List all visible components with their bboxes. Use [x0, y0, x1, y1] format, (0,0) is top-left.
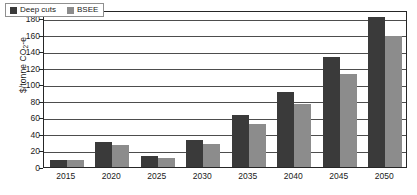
- x-axis-tick-label: 2040: [284, 172, 303, 181]
- x-axis-tick-label: 2030: [193, 172, 212, 181]
- bar-bsee-2020: [112, 145, 129, 167]
- y-axis-tick-label: 40: [14, 131, 40, 140]
- legend-entry: BSEE: [67, 6, 98, 14]
- bar-deep-cuts-2025: [141, 156, 158, 167]
- y-axis-tick-label: 160: [14, 32, 40, 41]
- bar-deep-cuts-2020: [95, 142, 112, 167]
- bar-group: [323, 12, 357, 167]
- legend-swatch-icon: [10, 7, 17, 14]
- bar-deep-cuts-2030: [186, 140, 203, 167]
- bar-deep-cuts-2045: [323, 57, 340, 167]
- legend-entry: Deep cuts: [10, 6, 56, 14]
- bars-layer: [44, 12, 406, 167]
- y-axis-tick-mark: [39, 168, 43, 169]
- x-axis-tick-label: 2045: [329, 172, 348, 181]
- bar-bsee-2030: [203, 144, 220, 167]
- legend-label: Deep cuts: [20, 6, 56, 14]
- bar-group: [95, 12, 129, 167]
- y-axis-tick-label: 20: [14, 147, 40, 156]
- bar-bsee-2040: [294, 104, 311, 167]
- legend-swatch-icon: [67, 7, 74, 14]
- bar-group: [277, 12, 311, 167]
- bar-deep-cuts-2035: [232, 115, 249, 167]
- x-axis-tick-label: 2015: [56, 172, 75, 181]
- y-axis-tick-label: 80: [14, 98, 40, 107]
- bar-deep-cuts-2040: [277, 92, 294, 167]
- x-axis-tick-label: 2020: [102, 172, 121, 181]
- bar-group: [186, 12, 220, 167]
- y-axis-tick-label: 60: [14, 114, 40, 123]
- bar-group: [141, 12, 175, 167]
- y-axis-tick-label: 120: [14, 65, 40, 74]
- x-axis-tick-labels: 20152020202520302035204020452050: [43, 172, 407, 186]
- bar-bsee-2045: [340, 74, 357, 167]
- bar-bsee-2015: [67, 160, 84, 167]
- bar-bsee-2025: [158, 158, 175, 167]
- y-axis-tick-label: 140: [14, 48, 40, 57]
- x-axis-tick-label: 2050: [375, 172, 394, 181]
- y-axis-tick-labels: 020406080100120140160180: [14, 11, 40, 168]
- y-axis-tick-label: 100: [14, 81, 40, 90]
- x-axis-tick-label: 2035: [238, 172, 257, 181]
- bar-group: [50, 12, 84, 167]
- bar-bsee-2050: [385, 36, 402, 167]
- bar-group: [232, 12, 266, 167]
- y-axis-tick-label: 0: [14, 164, 40, 173]
- legend-label: BSEE: [77, 6, 98, 14]
- bar-chart-figure: $/tonne CO2-e 020406080100120140160180 D…: [0, 0, 417, 195]
- bar-deep-cuts-2015: [50, 160, 67, 167]
- x-axis-tick-label: 2025: [147, 172, 166, 181]
- plot-area: [43, 11, 407, 168]
- bar-deep-cuts-2050: [368, 17, 385, 167]
- chart-legend: Deep cutsBSEE: [5, 3, 104, 17]
- bar-bsee-2035: [249, 124, 266, 167]
- bar-group: [368, 12, 402, 167]
